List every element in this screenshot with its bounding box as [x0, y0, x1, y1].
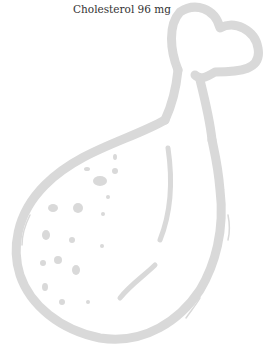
chicken-drumstick-icon: [0, 0, 272, 355]
